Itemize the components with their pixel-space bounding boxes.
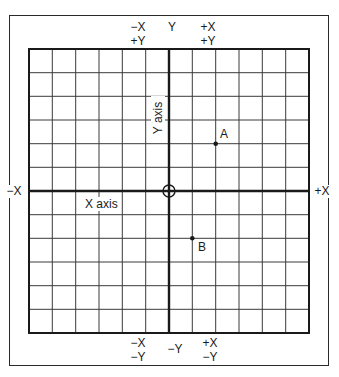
label-bottom-right-x: +X	[198, 337, 222, 351]
point-b-label: B	[197, 241, 207, 254]
label-top-left-quadrant: −X +Y	[126, 21, 150, 48]
label-top-left-x: −X	[126, 21, 150, 35]
point-b-marker	[190, 236, 195, 241]
y-axis-label: Y axis	[151, 96, 165, 140]
label-bottom-right-y: −Y	[198, 351, 222, 365]
label-bottom-left-x: −X	[126, 337, 150, 351]
label-bottom-left-quadrant: −X −Y	[126, 337, 150, 364]
label-top-center-y: Y	[165, 21, 179, 35]
label-bottom-right-quadrant: +X −Y	[198, 337, 222, 364]
coordinate-grid	[0, 0, 339, 377]
label-top-right-x: +X	[196, 21, 220, 35]
label-left-neg-x: −X	[3, 185, 25, 198]
label-bottom-left-y: −Y	[126, 351, 150, 365]
label-top-right-quadrant: +X +Y	[196, 21, 220, 48]
label-top-left-y: +Y	[126, 35, 150, 49]
label-bottom-center-neg-y: −Y	[162, 343, 188, 357]
label-top-right-y: +Y	[196, 35, 220, 49]
origin-circle-icon	[163, 185, 175, 197]
point-a-marker	[213, 141, 218, 146]
x-axis-label: X axis	[84, 197, 119, 211]
point-a-label: A	[219, 128, 229, 141]
label-right-pos-x: +X	[311, 185, 333, 198]
